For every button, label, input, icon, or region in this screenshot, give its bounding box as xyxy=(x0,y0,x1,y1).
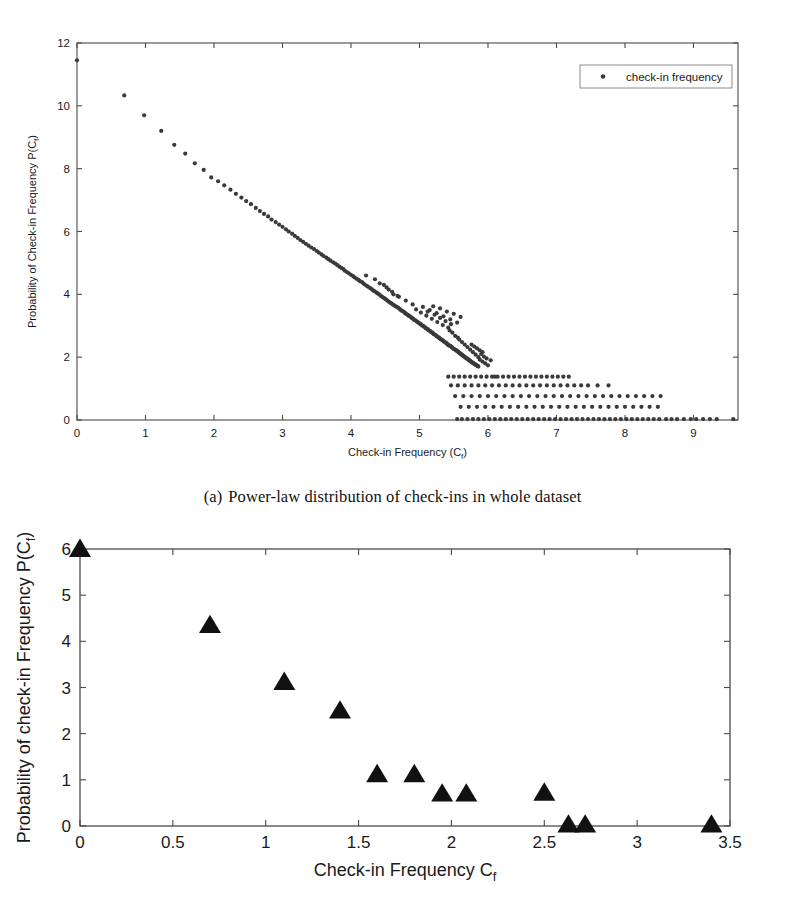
data-point xyxy=(411,302,415,306)
data-point xyxy=(467,405,471,409)
y-tick-label: 2 xyxy=(64,351,70,363)
data-point xyxy=(545,375,549,379)
data-point xyxy=(516,405,520,409)
data-point xyxy=(550,375,554,379)
data-point xyxy=(501,375,505,379)
data-point xyxy=(228,188,232,192)
data-point-triangle xyxy=(455,783,477,801)
data-point xyxy=(572,383,576,387)
data-point xyxy=(504,417,508,421)
data-point xyxy=(508,405,512,409)
data-point xyxy=(606,405,610,409)
legend: check-in frequency xyxy=(580,65,732,88)
data-point xyxy=(602,417,606,421)
x-tick-label: 3 xyxy=(632,833,641,852)
data-point xyxy=(266,214,270,218)
data-point xyxy=(378,281,382,285)
x-tick-label: 0 xyxy=(74,427,80,439)
data-point xyxy=(142,113,146,117)
data-point xyxy=(534,375,538,379)
data-point xyxy=(483,405,487,409)
data-point xyxy=(193,161,197,165)
data-point xyxy=(548,417,552,421)
data-point xyxy=(75,58,79,62)
data-point xyxy=(458,405,462,409)
data-point xyxy=(656,405,660,409)
data-point xyxy=(646,417,650,421)
data-point xyxy=(234,192,238,196)
data-point xyxy=(575,417,579,421)
data-point xyxy=(524,383,528,387)
data-point xyxy=(682,417,686,421)
y-tick-label: 6 xyxy=(64,226,70,238)
panel-a-chart: 0123456789024681012Check-in Frequency (C… xyxy=(0,18,785,478)
data-point xyxy=(441,323,445,327)
data-point xyxy=(549,405,553,409)
data-point xyxy=(650,394,654,398)
data-point xyxy=(258,209,262,213)
data-point xyxy=(585,394,589,398)
data-points-group xyxy=(69,539,722,833)
data-point xyxy=(159,129,163,133)
y-axis-label-group: Probability of Check-in Frequency P(Cf) xyxy=(26,135,41,328)
x-tick-label: 4 xyxy=(348,427,355,439)
x-tick-label: 1 xyxy=(261,833,270,852)
data-point-triangle xyxy=(366,764,388,782)
data-point xyxy=(262,212,266,216)
data-point xyxy=(623,405,627,409)
data-point xyxy=(659,394,663,398)
y-tick-label: 12 xyxy=(57,37,70,49)
data-point xyxy=(511,383,515,387)
data-point xyxy=(567,375,571,379)
scatter-plot-sample-subset: 00.511.522.533.50123456Check-in Frequenc… xyxy=(0,528,785,888)
data-point xyxy=(280,225,284,229)
data-point xyxy=(480,350,484,354)
data-point xyxy=(619,417,623,421)
data-point xyxy=(487,417,491,421)
data-point-triangle xyxy=(574,814,596,832)
data-point xyxy=(452,312,456,316)
data-point xyxy=(715,417,719,421)
data-point xyxy=(452,375,456,379)
data-point xyxy=(624,417,628,421)
data-point xyxy=(395,294,399,298)
data-point xyxy=(642,394,646,398)
data-point xyxy=(519,394,523,398)
panel-a-caption-text: Power-law distribution of check-ins in w… xyxy=(228,487,581,506)
data-point-triangle xyxy=(403,764,425,782)
data-point xyxy=(523,375,527,379)
data-point xyxy=(590,405,594,409)
data-point xyxy=(558,383,562,387)
data-point xyxy=(626,394,630,398)
data-point xyxy=(560,394,564,398)
x-tick-label: 3 xyxy=(279,427,285,439)
data-point xyxy=(430,317,434,321)
data-point xyxy=(448,317,452,321)
data-point xyxy=(538,383,542,387)
data-point xyxy=(517,383,521,387)
data-point xyxy=(552,383,556,387)
data-point xyxy=(506,375,510,379)
data-point xyxy=(568,394,572,398)
data-point xyxy=(635,417,639,421)
data-point xyxy=(463,383,467,387)
data-point xyxy=(390,290,394,294)
data-point xyxy=(708,417,712,421)
data-point xyxy=(504,383,508,387)
data-point xyxy=(483,383,487,387)
data-point xyxy=(479,375,483,379)
data-point xyxy=(441,314,445,318)
data-point xyxy=(244,199,248,203)
x-tick-label: 2.5 xyxy=(532,833,556,852)
data-point xyxy=(532,405,536,409)
data-point xyxy=(122,93,126,97)
data-point xyxy=(449,322,453,326)
data-point xyxy=(202,168,206,172)
legend-label: check-in frequency xyxy=(626,71,723,83)
data-point xyxy=(494,394,498,398)
y-axis-label: Probability of check-in Frequency P(Cf) xyxy=(14,532,38,844)
data-point xyxy=(239,195,243,199)
data-point xyxy=(453,394,457,398)
data-point-triangle xyxy=(533,782,555,800)
data-point xyxy=(639,405,643,409)
